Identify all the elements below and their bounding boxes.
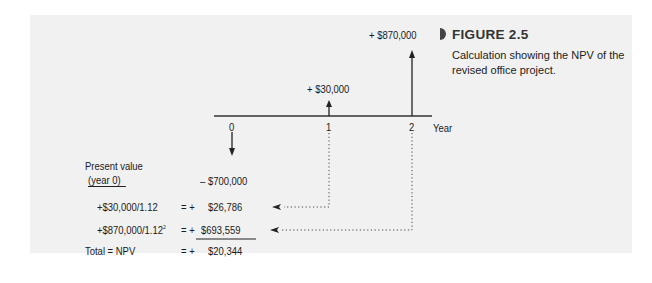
pv-row-2-eq: = + [181, 224, 195, 236]
pv-header-line1: Present value [85, 160, 143, 172]
npv-total-value: $20,344 [208, 245, 242, 257]
pv-header-line2: (year 0) [88, 174, 126, 187]
pv-row-2-expr: +$870,000/1.122 [97, 224, 166, 236]
pv-year0-value: – $700,000 [200, 175, 247, 187]
pv-row-1-expr: +$30,000/1.12 [97, 201, 158, 213]
timeline-diagram [0, 0, 652, 283]
cash-flow-year-2: + $870,000 [369, 29, 417, 41]
npv-total-eq: = + [181, 245, 195, 257]
npv-total-label: Total = NPV [85, 245, 135, 257]
pv-row-2-value: $693,559 [201, 224, 240, 236]
pv-row-1-eq: = + [181, 201, 195, 213]
axis-label-year: Year [433, 122, 452, 134]
pv-row-1-value: $26,786 [208, 201, 242, 213]
figure-label: FIGURE 2.5 [452, 27, 529, 42]
cash-flow-year-1: + $30,000 [307, 83, 349, 95]
figure-caption: Calculation showing the NPV of the revis… [452, 48, 627, 78]
tick-year-2: 2 [409, 121, 414, 133]
tick-year-0: 0 [229, 121, 234, 133]
tick-year-1: 1 [326, 121, 331, 133]
